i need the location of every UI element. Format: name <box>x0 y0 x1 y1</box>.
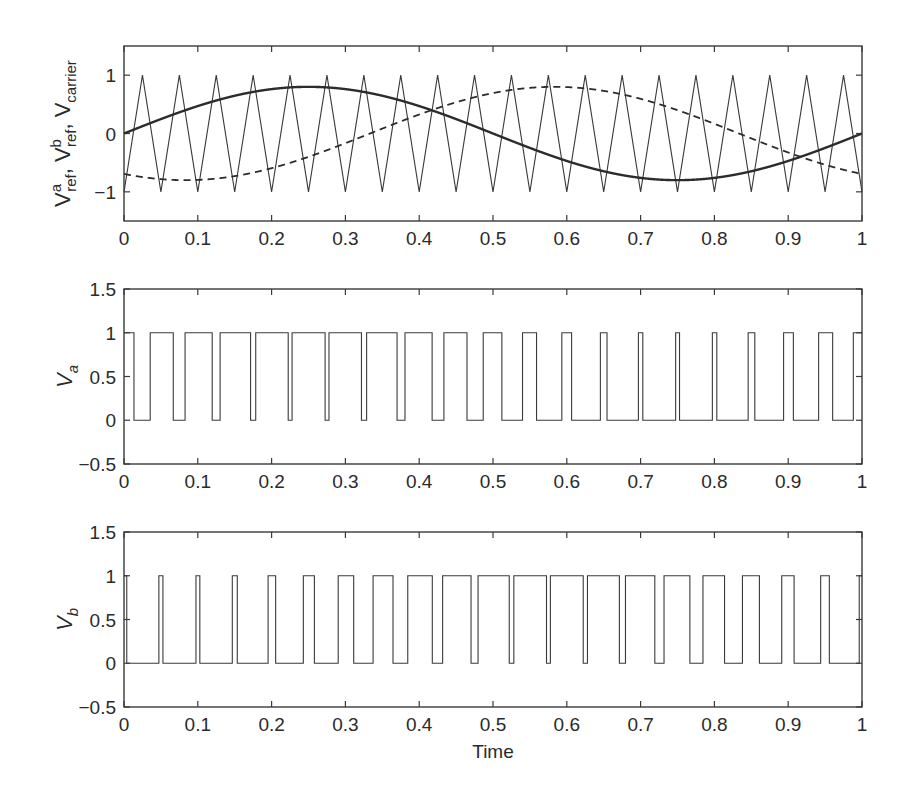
x-tick-label: 0.8 <box>701 714 727 735</box>
y-axis-label: Vb <box>52 608 81 631</box>
x-tick-label: 0.7 <box>627 228 653 249</box>
x-tick-label: 0.1 <box>185 471 211 492</box>
axes-box <box>124 532 862 707</box>
x-axis-label-time: Time <box>472 741 514 762</box>
va-pwm-line <box>124 333 862 421</box>
x-tick-label: 0.5 <box>480 714 506 735</box>
panel-bottom-vb: 00.10.20.30.40.50.60.70.80.91−0.500.511.… <box>52 522 867 735</box>
x-tick-label: 0 <box>119 714 130 735</box>
y-label-part: ref <box>62 174 79 192</box>
x-tick-label: 0.9 <box>775 471 801 492</box>
y-tick-label: 1.5 <box>90 522 116 543</box>
y-label-part: V <box>50 192 75 207</box>
y-tick-label: 0.5 <box>90 610 116 631</box>
y-tick-label: 0 <box>105 124 116 145</box>
x-tick-label: 0.9 <box>775 714 801 735</box>
x-tick-label: 0.9 <box>775 228 801 249</box>
x-tick-label: 0.6 <box>554 228 580 249</box>
x-tick-label: 0.2 <box>258 228 284 249</box>
y-label-part: , <box>50 117 75 129</box>
vb-pwm-line <box>124 576 862 664</box>
y-tick-label: 1.5 <box>90 279 116 300</box>
x-tick-label: 1 <box>857 714 868 735</box>
y-label-part: V <box>50 147 75 162</box>
x-tick-label: 1 <box>857 471 868 492</box>
y-axis-label: Varef, Vbref, Vcarrier <box>47 60 79 207</box>
x-tick-label: 0.7 <box>627 714 653 735</box>
x-tick-label: 0.3 <box>332 471 358 492</box>
x-tick-label: 0.6 <box>554 714 580 735</box>
x-tick-label: 0.3 <box>332 228 358 249</box>
y-tick-label: 1 <box>105 65 116 86</box>
x-tick-label: 0 <box>119 471 130 492</box>
x-tick-label: 0.4 <box>406 228 433 249</box>
y-label-part: ref <box>62 129 79 147</box>
x-tick-label: 1 <box>857 228 868 249</box>
y-tick-label: −0.5 <box>78 454 116 475</box>
panel-middle-va: 00.10.20.30.40.50.60.70.80.91−0.500.511.… <box>52 279 867 492</box>
y-label-part: carrier <box>62 60 79 103</box>
x-tick-label: 0.4 <box>406 714 433 735</box>
y-tick-label: 0.5 <box>90 367 116 388</box>
y-tick-label: 0 <box>105 653 116 674</box>
y-axis-label: Va <box>52 365 81 388</box>
panel-top-reference-carrier: 00.10.20.30.40.50.60.70.80.91−101Varef, … <box>47 46 867 249</box>
y-tick-label: −1 <box>94 182 116 203</box>
x-tick-label: 0.1 <box>185 228 211 249</box>
y-tick-label: 0 <box>105 410 116 431</box>
x-tick-label: 0 <box>119 228 130 249</box>
x-tick-label: 0.5 <box>480 471 506 492</box>
x-tick-label: 0.1 <box>185 714 211 735</box>
y-tick-label: −0.5 <box>78 697 116 718</box>
x-tick-label: 0.4 <box>406 471 433 492</box>
ref-a-line <box>124 87 862 180</box>
x-tick-label: 0.2 <box>258 714 284 735</box>
x-tick-label: 0.3 <box>332 714 358 735</box>
y-tick-label: 1 <box>105 323 116 344</box>
x-tick-label: 0.7 <box>627 471 653 492</box>
x-tick-label: 0.8 <box>701 228 727 249</box>
x-tick-label: 0.8 <box>701 471 727 492</box>
x-tick-label: 0.6 <box>554 471 580 492</box>
axes-box <box>124 289 862 464</box>
x-tick-label: 0.5 <box>480 228 506 249</box>
y-tick-label: 1 <box>105 566 116 587</box>
y-label-part: , <box>50 162 75 174</box>
figure: 00.10.20.30.40.50.60.70.80.91−101Varef, … <box>0 0 905 800</box>
y-label-part: V <box>50 102 75 117</box>
x-tick-label: 0.2 <box>258 471 284 492</box>
